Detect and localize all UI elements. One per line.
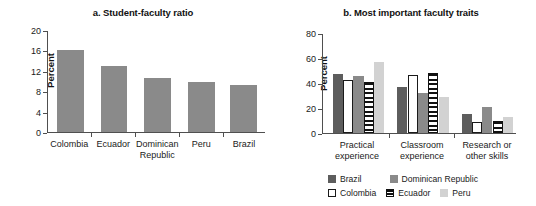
panel-a-xlabel-colombia: Colombia (50, 139, 88, 150)
panel-b-xlabel-research-or-other-skills: Research or other skills (462, 140, 511, 162)
panel-b-ytick-label: 0 (311, 129, 316, 139)
panel-b-ytick-label: 40 (306, 79, 316, 89)
xlabel-line1: Peru (192, 139, 211, 150)
xlabel-line2: Republic (136, 150, 179, 161)
panel-a-xlabel-dominican-republic: Dominican Republic (136, 139, 179, 161)
panel-a-ytick-label: 12 (31, 67, 41, 77)
legend-item-brazil: Brazil (328, 174, 362, 184)
panel-a-xlabel-peru: Peru (192, 139, 211, 150)
panel-a-xtick-mark (179, 133, 180, 137)
xlabel-line1: Practical (335, 140, 379, 151)
panel-a-x-axis (47, 132, 265, 133)
legend-label-colombia: Colombia (340, 188, 376, 198)
bar-practical-colombia (343, 80, 353, 133)
panel-b-xtick-mark (389, 134, 390, 138)
panel-a-ytick-mark (43, 72, 47, 73)
xlabel-line1: Brazil (233, 139, 256, 150)
panel-b-bars (323, 34, 516, 133)
legend-label-dominican-republic: Dominican Republic (402, 174, 478, 184)
xlabel-line1: Classroom (400, 140, 444, 151)
panel-b-title: b. Most important faculty traits (286, 7, 536, 18)
xlabel-line2: experience (400, 151, 444, 162)
panel-a-ytick-label: 4 (36, 108, 41, 118)
bar-research-ecuador (493, 121, 503, 133)
panel-a-ytick-mark (43, 51, 47, 52)
bar-classroom-brazil (397, 87, 407, 133)
legend-item-colombia: Colombia (328, 188, 376, 198)
panel-b-ytick-mark (318, 34, 322, 35)
legend-label-peru: Peru (452, 188, 470, 198)
legend-row-2: Colombia Ecuador Peru (328, 186, 534, 200)
panel-a-ytick-label: 20 (31, 26, 41, 36)
panel-a-plot-area: Percent 20 16 12 8 4 (47, 31, 265, 133)
bar-colombia (57, 50, 84, 132)
panel-b-xtick-mark (454, 134, 455, 138)
panel-a-ytick-mark (43, 31, 47, 32)
panel-a-xlabel-ecuador: Ecuador (97, 139, 131, 150)
legend-item-peru: Peru (440, 188, 470, 198)
xlabel-line1: Ecuador (97, 139, 131, 150)
panel-a-ytick-label: 16 (31, 46, 41, 56)
panel-a-xtick-mark (135, 133, 136, 137)
panel-b-ytick-mark (318, 134, 322, 135)
panel-b-x-axis (322, 133, 516, 134)
bar-research-brazil (462, 114, 472, 133)
legend-label-ecuador: Ecuador (398, 188, 430, 198)
panel-a-ytick-label: 0 (36, 128, 41, 138)
bar-practical-peru (374, 62, 384, 133)
bar-brazil (230, 85, 257, 132)
bar-dominican-republic (144, 78, 171, 132)
bar-classroom-colombia (408, 75, 418, 133)
bar-classroom-ecuador (428, 73, 438, 133)
panel-a-ytick-mark (43, 92, 47, 93)
legend-item-ecuador: Ecuador (386, 188, 430, 198)
panel-b-ytick-mark (318, 84, 322, 85)
legend-item-dominican-republic: Dominican Republic (390, 174, 478, 184)
legend-swatch-ecuador-icon (386, 189, 394, 197)
panel-a-ytick-mark (43, 113, 47, 114)
bar-classroom-peru (439, 97, 449, 133)
bar-ecuador (101, 66, 128, 132)
bar-practical-dominican-republic (353, 76, 363, 133)
panel-b-xlabel-classroom-experience: Classroom experience (400, 140, 444, 162)
panel-b-ytick-label: 20 (306, 104, 316, 114)
panel-a-bars (48, 31, 265, 132)
bar-practical-ecuador (364, 82, 374, 133)
xlabel-line1: Dominican (136, 139, 179, 150)
panel-b-plot-area: Percent 80 60 40 20 0 (322, 34, 516, 134)
panel-a-student-faculty-ratio: a. Student-faculty ratio Percent 20 16 1… (0, 0, 286, 206)
legend-swatch-dominican-republic-icon (390, 175, 398, 183)
legend-label-brazil: Brazil (340, 174, 362, 184)
panel-b-xlabel-practical-experience: Practical experience (335, 140, 379, 162)
panel-a-ytick-label: 8 (36, 87, 41, 97)
legend-row-1: Brazil Dominican Republic (328, 172, 534, 186)
panel-b-ytick-mark (318, 59, 322, 60)
panel-b-ytick-label: 80 (306, 29, 316, 39)
panel-a-ytick-mark (43, 133, 47, 134)
panel-b-most-important-faculty-traits: b. Most important faculty traits Percent… (286, 0, 536, 206)
legend-swatch-brazil-icon (328, 175, 336, 183)
bar-classroom-dominican-republic (418, 93, 428, 133)
panel-b-legend: Brazil Dominican Republic Colombia Ecuad… (328, 172, 534, 200)
legend-swatch-colombia-icon (328, 189, 336, 197)
panel-b-ytick-label: 60 (306, 54, 316, 64)
bar-practical-brazil (333, 74, 343, 133)
xlabel-line2: experience (335, 151, 379, 162)
bar-research-peru (503, 117, 513, 133)
legend-swatch-peru-icon (440, 189, 448, 197)
figure-two-panel-bar-charts: a. Student-faculty ratio Percent 20 16 1… (0, 0, 536, 206)
panel-a-title: a. Student-faculty ratio (0, 7, 286, 18)
panel-a-xtick-mark (223, 133, 224, 137)
xlabel-line1: Research or (462, 140, 511, 151)
panel-b-ytick-mark (318, 109, 322, 110)
bar-peru (188, 82, 215, 132)
xlabel-line1: Colombia (50, 139, 88, 150)
bar-research-colombia (472, 122, 482, 133)
xlabel-line2: other skills (462, 151, 511, 162)
panel-a-xtick-mark (91, 133, 92, 137)
bar-research-dominican-republic (482, 107, 492, 133)
panel-a-xlabel-brazil: Brazil (233, 139, 256, 150)
